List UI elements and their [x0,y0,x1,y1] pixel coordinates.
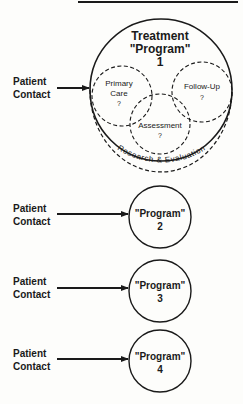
program-2: "Program" 2 [129,186,191,248]
patient-contact-1: Patient Contact [13,76,89,100]
program-diagram: Treatment "Program" 1 Primary Care ? Fol… [0,0,243,404]
patient-contact-2-line1: Patient [13,203,47,214]
patient-contact-4-line2: Contact [13,361,51,372]
program-3-number: 3 [157,293,163,304]
program-1-title-line1: Treatment [131,29,188,43]
follow-up-label: Follow-Up [184,82,221,91]
patient-contact-3: Patient Contact [13,276,128,300]
program-3: "Program" 3 [129,260,191,322]
treatment-program-1: Treatment "Program" 1 Primary Care ? Fol… [90,19,232,172]
program-4-label: "Program" [135,351,186,362]
follow-up-question: ? [200,94,204,101]
program-2-number: 2 [157,221,163,232]
primary-care-label-line1: Primary [105,79,133,88]
primary-care-label-line2: Care [110,89,128,98]
program-4: "Program" 4 [129,330,191,392]
patient-contact-1-line2: Contact [13,89,51,100]
patient-contact-2-line2: Contact [13,216,51,227]
patient-contact-4: Patient Contact [13,348,128,372]
program-1-title-line2: "Program" [130,42,191,56]
program-1-number: 1 [157,55,164,69]
patient-contact-3-line1: Patient [13,276,47,287]
patient-contact-2: Patient Contact [13,203,128,227]
primary-care-question: ? [117,100,121,107]
program-3-label: "Program" [135,280,186,291]
patient-contact-3-line2: Contact [13,289,51,300]
program-3-circle [129,260,191,322]
assessment-question: ? [158,132,162,139]
program-4-number: 4 [157,364,163,375]
follow-up-circle [172,62,232,122]
patient-contact-4-line1: Patient [13,348,47,359]
program-2-label: "Program" [135,208,186,219]
patient-contact-1-line1: Patient [13,76,47,87]
assessment-label: Assessment [138,121,182,130]
